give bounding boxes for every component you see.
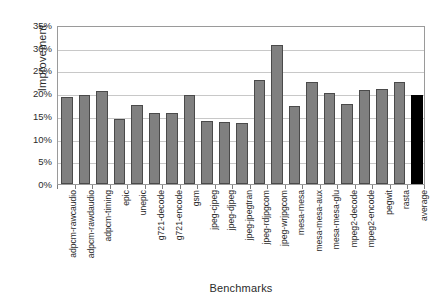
plot-area <box>57 26 425 185</box>
x-tick-label: average <box>420 190 429 221</box>
x-tick <box>390 185 391 189</box>
bar <box>184 95 196 184</box>
y-tick-label: 25% <box>18 66 52 76</box>
x-tick <box>145 185 146 189</box>
x-tick-label: g721-decode <box>157 190 166 240</box>
x-tick <box>407 185 408 189</box>
bar <box>254 80 266 184</box>
bar <box>96 91 108 184</box>
bar <box>306 82 318 184</box>
bar <box>79 95 91 184</box>
x-tick <box>424 185 425 189</box>
x-tick-label: jpeg-rdjpgcom <box>262 190 271 244</box>
x-tick <box>337 185 338 189</box>
bars-layer <box>58 27 424 184</box>
x-axis-tick-labels: adpcm-rawcaudioadpcm-rawdaudioadpcm-timi… <box>57 190 425 278</box>
x-tick-label: jpeg-wrjpgcom <box>280 190 289 246</box>
y-axis-tick-labels: 35%30%25%20%15%10%5%0% <box>18 20 52 192</box>
x-tick-label: mesa-mesa-aux <box>315 190 324 252</box>
y-tick-label: 35% <box>18 21 52 31</box>
y-tick-label: 10% <box>18 135 52 145</box>
x-tick-label: mesa-mesa <box>297 190 306 235</box>
bar <box>411 95 423 184</box>
y-tick-label: 15% <box>18 112 52 122</box>
bar <box>376 89 388 184</box>
bar <box>359 90 371 184</box>
x-tick <box>75 185 76 189</box>
bar <box>394 82 406 184</box>
x-tick <box>232 185 233 189</box>
x-tick-label: adpcm-rawcaudio <box>69 190 78 258</box>
bar <box>61 97 73 184</box>
bar <box>131 105 143 185</box>
x-tick <box>372 185 373 189</box>
x-tick <box>215 185 216 189</box>
x-tick <box>320 185 321 189</box>
bar <box>324 93 336 184</box>
x-tick <box>162 185 163 189</box>
x-tick <box>110 185 111 189</box>
x-tick-label: g721-encode <box>175 190 184 240</box>
x-tick <box>250 185 251 189</box>
bar <box>341 104 353 184</box>
x-tick <box>285 185 286 189</box>
x-tick-label: epic <box>122 190 131 206</box>
x-tick-label: mpeg2-decode <box>350 190 359 247</box>
x-tick-label: jpeg-cjpeg <box>210 190 219 230</box>
bar <box>201 121 213 184</box>
x-tick-label: unepic <box>139 190 148 215</box>
x-tick <box>92 185 93 189</box>
y-tick-label: 20% <box>18 89 52 99</box>
x-tick-label: mesa-mesa-glu <box>332 190 341 249</box>
bar <box>114 119 126 184</box>
y-tick-label: 5% <box>18 157 52 167</box>
bar <box>166 113 178 184</box>
x-tick-label: mpeg2-encode <box>367 190 376 247</box>
x-tick-label: pegwit <box>385 190 394 215</box>
y-tick-label: 30% <box>18 44 52 54</box>
x-tick-label: jpeg-djpeg <box>227 190 236 230</box>
bar <box>289 106 301 184</box>
bar <box>149 113 161 184</box>
bar <box>219 122 231 184</box>
x-tick-label: adpcm-timing <box>104 190 113 242</box>
bar <box>271 45 283 184</box>
x-tick-label: jpeg-jpegtran <box>245 190 254 240</box>
x-tick-label: gsm <box>192 190 201 206</box>
x-axis-title: Benchmarks <box>57 282 425 294</box>
x-tick <box>267 185 268 189</box>
x-tick <box>355 185 356 189</box>
x-tick <box>197 185 198 189</box>
bar-chart: Improvement 35%30%25%20%15%10%5%0% adpcm… <box>0 0 436 308</box>
bar <box>236 123 248 184</box>
x-tick-label: rasta <box>402 190 411 209</box>
x-tick <box>57 185 58 189</box>
x-tick <box>180 185 181 189</box>
x-tick-label: adpcm-rawdaudio <box>87 190 96 258</box>
y-tick-label: 0% <box>18 180 52 190</box>
x-tick <box>127 185 128 189</box>
x-tick <box>302 185 303 189</box>
